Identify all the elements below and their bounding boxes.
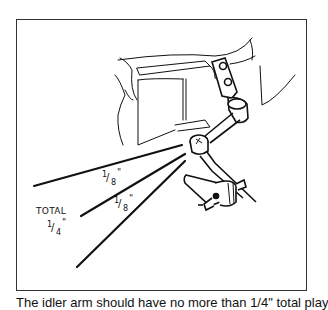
figure-caption: The idler arm should have no more than 1… bbox=[16, 296, 316, 310]
total-label: TOTAL bbox=[36, 206, 66, 216]
